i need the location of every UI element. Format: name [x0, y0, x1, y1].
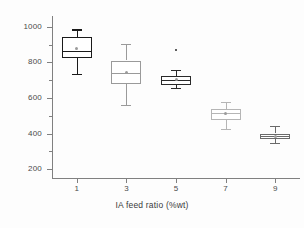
x-axis-title: IA feed ratio (%wt) — [0, 200, 304, 210]
x-tick-major — [176, 179, 177, 183]
whisker-cap-lower — [270, 143, 280, 144]
x-tick-label: 1 — [62, 184, 92, 193]
y-tick-label: 200 — [2, 164, 42, 173]
mean-marker — [274, 135, 277, 138]
x-tick-label: 3 — [111, 184, 141, 193]
x-tick-major — [275, 179, 276, 183]
x-tick-major — [126, 179, 127, 183]
boxplot-figure: Nanofiber Diameter (nm) 2004006008001000… — [0, 0, 304, 228]
x-tick-label: 7 — [211, 184, 241, 193]
box-plot-group[interactable] — [0, 0, 304, 162]
whisker-cap-upper — [270, 126, 280, 127]
x-tick-major — [77, 179, 78, 183]
x-tick-major — [226, 179, 227, 183]
x-tick-label: 9 — [260, 184, 290, 193]
x-tick-label: 5 — [161, 184, 191, 193]
